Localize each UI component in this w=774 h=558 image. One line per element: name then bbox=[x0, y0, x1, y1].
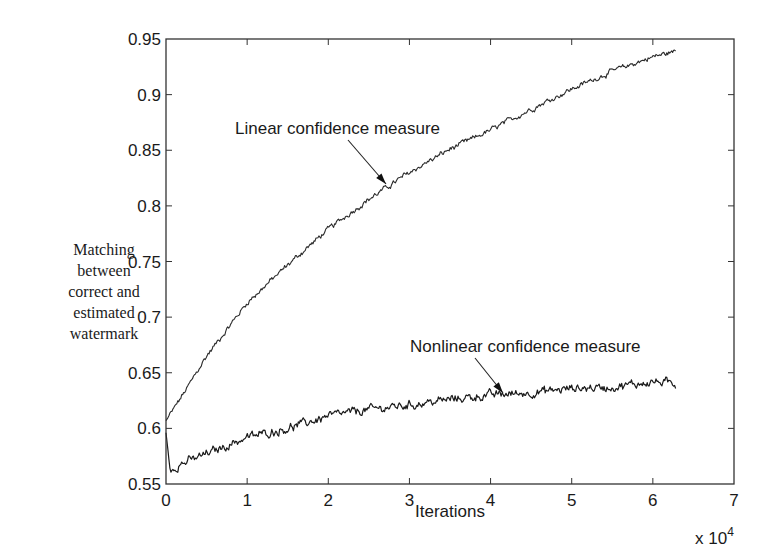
y-axis-title-line: estimated bbox=[44, 302, 164, 323]
y-axis-title-line: watermark bbox=[44, 323, 164, 344]
x-tick-label: 2 bbox=[324, 491, 333, 510]
y-axis-title: Matching between correct and estimated w… bbox=[44, 239, 164, 344]
x-multiplier-base: x 10 bbox=[695, 529, 727, 548]
y-axis-title-line: Matching bbox=[44, 239, 164, 260]
plot-frame bbox=[166, 39, 734, 484]
y-tick-label: 0.55 bbox=[128, 475, 161, 494]
y-axis-title-line: correct and bbox=[44, 281, 164, 302]
arrowhead-icon bbox=[493, 382, 503, 393]
x-tick-label: 1 bbox=[242, 491, 251, 510]
tick-labels: 012345670.550.60.650.70.750.80.850.90.95 bbox=[128, 30, 739, 510]
linear-confidence-line bbox=[166, 50, 676, 421]
axes-frame bbox=[166, 39, 734, 484]
chart-figure: 012345670.550.60.650.70.750.80.850.90.95… bbox=[0, 0, 774, 558]
nonlinear-confidence-line bbox=[166, 377, 676, 472]
x-multiplier-exponent: 4 bbox=[727, 525, 734, 539]
y-tick-label: 0.9 bbox=[137, 86, 161, 105]
y-tick-label: 0.95 bbox=[128, 30, 161, 49]
y-tick-label: 0.65 bbox=[128, 364, 161, 383]
y-axis-title-line: between bbox=[44, 260, 164, 281]
x-tick-label: 5 bbox=[567, 491, 576, 510]
x-tick-label: 4 bbox=[486, 491, 495, 510]
x-tick-label: 7 bbox=[729, 491, 738, 510]
y-tick-label: 0.85 bbox=[128, 141, 161, 160]
x-tick-label: 3 bbox=[405, 491, 414, 510]
x-axis-multiplier: x 104 bbox=[695, 525, 734, 548]
x-tick-label: 6 bbox=[648, 491, 657, 510]
nonlinear-annotation-label: Nonlinear confidence measure bbox=[410, 337, 641, 356]
series-layer bbox=[166, 50, 676, 472]
y-tick-label: 0.8 bbox=[137, 197, 161, 216]
linear-annotation-label: Linear confidence measure bbox=[235, 119, 440, 138]
y-tick-label: 0.6 bbox=[137, 419, 161, 438]
x-tick-label: 0 bbox=[161, 491, 170, 510]
x-axis-title: Iterations bbox=[415, 502, 485, 521]
